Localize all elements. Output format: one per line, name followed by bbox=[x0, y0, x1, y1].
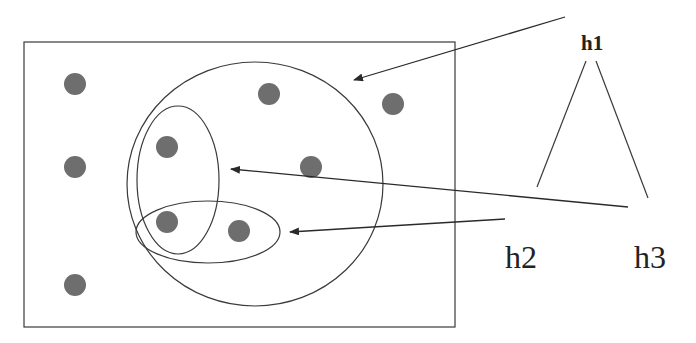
arrow-h2-to-region bbox=[231, 169, 628, 207]
instance-point bbox=[300, 156, 322, 178]
arrow-h1-to-region bbox=[354, 17, 565, 80]
label-h2: h2 bbox=[505, 239, 537, 275]
label-h1: h1 bbox=[581, 31, 603, 55]
arrow-h3-to-region bbox=[290, 219, 505, 232]
hypothesis-h2-region bbox=[137, 106, 219, 254]
instance-point bbox=[64, 274, 86, 296]
label-h3: h3 bbox=[634, 239, 666, 275]
hypothesis-h1-region bbox=[127, 62, 383, 306]
instance-point bbox=[64, 73, 86, 95]
instance-point bbox=[156, 211, 178, 233]
instance-point bbox=[258, 83, 280, 105]
hypothesis-h3-region bbox=[136, 201, 280, 263]
instance-point bbox=[64, 156, 86, 178]
hypothesis-diagram: h1 h2 h3 bbox=[0, 0, 696, 343]
instance-point bbox=[228, 220, 250, 242]
instance-point bbox=[156, 136, 178, 158]
instance-point bbox=[382, 93, 404, 115]
tree-edge-h1-h2 bbox=[537, 61, 586, 187]
tree-edge-h1-h3 bbox=[596, 61, 648, 198]
